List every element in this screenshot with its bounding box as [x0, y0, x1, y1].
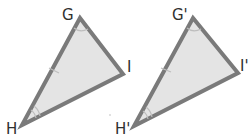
vertex-label-h: H	[6, 122, 17, 137]
vertex-label-i-prime: I'	[240, 59, 249, 74]
triangle-ghi	[22, 18, 123, 125]
vertex-label-h-prime: H'	[115, 122, 130, 137]
vertex-label-g: G	[62, 8, 74, 23]
vertex-label-i: I	[127, 60, 131, 75]
stray-dot	[109, 114, 111, 116]
triangles-svg	[0, 0, 251, 138]
congruent-triangles-figure: •• •• ••• G I H G' I' H'	[0, 0, 251, 138]
cropped-top-text: •• •• •••	[20, 0, 105, 5]
vertex-label-g-prime: G'	[172, 8, 188, 23]
triangle-g-prime-h-prime-i-prime	[134, 18, 238, 126]
